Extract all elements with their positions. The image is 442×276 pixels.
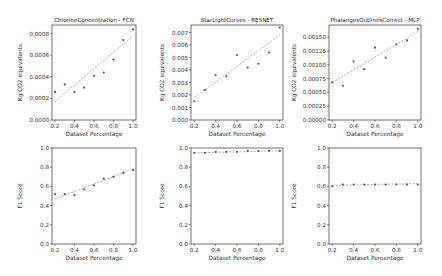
data-point xyxy=(417,28,419,30)
y-tick-label: 0.8 xyxy=(40,164,49,170)
y-tick-label: 0.4 xyxy=(317,203,326,209)
data-point xyxy=(236,54,238,56)
y-tick-label: 0.8 xyxy=(317,164,326,170)
data-point xyxy=(83,188,85,190)
x-tick-label: 0.2 xyxy=(190,123,199,129)
x-tick-label: 0.2 xyxy=(190,247,199,253)
x-tick-label: 0.4 xyxy=(349,247,358,253)
data-point xyxy=(331,81,333,83)
y-tick-label: 0.00100 xyxy=(303,62,327,68)
x-tick-label: 0.2 xyxy=(328,247,337,253)
data-point xyxy=(353,60,355,62)
x-tick-label: 0.2 xyxy=(50,247,59,253)
trend-line xyxy=(55,169,133,199)
data-point xyxy=(215,74,217,76)
x-axis-label: Dataset Percentage xyxy=(346,255,404,262)
y-tick-label: 0.2 xyxy=(179,222,188,228)
x-tick-label: 0.8 xyxy=(109,123,118,129)
subplot-title: PhalangesOutlinesCorrect - MLP xyxy=(330,17,420,24)
data-point xyxy=(331,185,333,187)
y-tick-label: 0.00150 xyxy=(303,34,327,40)
data-point xyxy=(193,152,195,154)
y-tick-label: 1.0 xyxy=(317,145,326,151)
axes-frame xyxy=(329,148,421,244)
subplot-4: 0.20.40.60.81.00.00.20.40.60.81.0Dataset… xyxy=(17,145,138,262)
data-point xyxy=(132,169,134,171)
y-tick-label: 0.002 xyxy=(172,92,188,98)
y-tick-label: 0.0006 xyxy=(29,52,49,58)
axes-frame xyxy=(52,148,136,244)
y-tick-label: 0.2 xyxy=(317,222,326,228)
x-axis-label: Dataset Percentage xyxy=(65,131,123,138)
data-point xyxy=(236,151,238,153)
data-point xyxy=(112,176,114,178)
data-point xyxy=(374,47,376,49)
data-point xyxy=(204,152,206,154)
data-point xyxy=(193,100,195,102)
y-tick-label: 0.000 xyxy=(172,117,188,123)
x-tick-label: 0.8 xyxy=(392,247,401,253)
data-point xyxy=(204,89,206,91)
x-tick-label: 0.4 xyxy=(70,123,79,129)
y-tick-label: 0.007 xyxy=(172,30,188,36)
data-point xyxy=(406,39,408,41)
y-tick-label: 0.0 xyxy=(40,241,49,247)
data-point xyxy=(268,150,270,152)
data-point xyxy=(395,183,397,185)
x-tick-label: 0.6 xyxy=(90,247,99,253)
x-tick-label: 1.0 xyxy=(275,247,284,253)
y-tick-label: 0.0002 xyxy=(29,95,49,101)
y-tick-label: 0.005 xyxy=(172,55,188,61)
data-point xyxy=(395,43,397,45)
x-axis-label: Dataset Percentage xyxy=(208,255,266,262)
data-point xyxy=(353,183,355,185)
data-point xyxy=(122,39,124,41)
x-axis-label: Dataset Percentage xyxy=(208,131,266,138)
x-tick-label: 0.4 xyxy=(211,123,220,129)
y-tick-label: 0.00000 xyxy=(303,117,327,123)
y-tick-label: 0.8 xyxy=(179,164,188,170)
y-tick-label: 0.0 xyxy=(179,241,188,247)
y-tick-label: 0.6 xyxy=(179,183,188,189)
data-point xyxy=(112,58,114,60)
x-tick-label: 1.0 xyxy=(275,123,284,129)
data-point xyxy=(268,51,270,53)
data-point xyxy=(83,87,85,89)
y-axis-label: F1 Score xyxy=(17,183,23,209)
y-tick-label: 0.003 xyxy=(172,80,188,86)
data-point xyxy=(225,151,227,153)
data-point xyxy=(385,56,387,58)
data-point xyxy=(257,150,259,152)
y-tick-label: 1.0 xyxy=(179,145,188,151)
x-tick-label: 1.0 xyxy=(129,247,138,253)
data-point xyxy=(247,66,249,68)
x-tick-label: 0.8 xyxy=(254,123,263,129)
data-point xyxy=(64,193,66,195)
y-tick-label: 0.0004 xyxy=(29,74,49,80)
y-tick-label: 0.2 xyxy=(40,222,49,228)
axes-frame xyxy=(329,25,421,120)
trend-line xyxy=(332,32,418,83)
y-tick-label: 0.004 xyxy=(172,67,188,73)
data-point xyxy=(385,183,387,185)
data-point xyxy=(342,183,344,185)
x-tick-label: 0.8 xyxy=(254,247,263,253)
data-point xyxy=(64,83,66,85)
x-tick-label: 0.4 xyxy=(70,247,79,253)
data-point xyxy=(363,183,365,185)
y-tick-label: 0.00050 xyxy=(303,89,327,95)
y-axis-label: Kg CO2 equivalents xyxy=(17,44,24,101)
data-point xyxy=(247,150,249,152)
x-tick-label: 0.2 xyxy=(50,123,59,129)
y-tick-label: 0.00075 xyxy=(303,76,327,82)
data-point xyxy=(93,75,95,77)
data-point xyxy=(279,26,281,28)
x-axis-label: Dataset Percentage xyxy=(346,131,404,138)
x-tick-label: 0.6 xyxy=(90,123,99,129)
data-point xyxy=(103,71,105,73)
data-point xyxy=(374,183,376,185)
x-tick-label: 0.4 xyxy=(349,123,358,129)
subplot-6: 0.20.40.60.81.00.00.20.40.60.81.0Dataset… xyxy=(291,145,423,262)
y-tick-label: 0.0008 xyxy=(29,31,49,37)
y-tick-label: 0.00025 xyxy=(303,103,327,109)
